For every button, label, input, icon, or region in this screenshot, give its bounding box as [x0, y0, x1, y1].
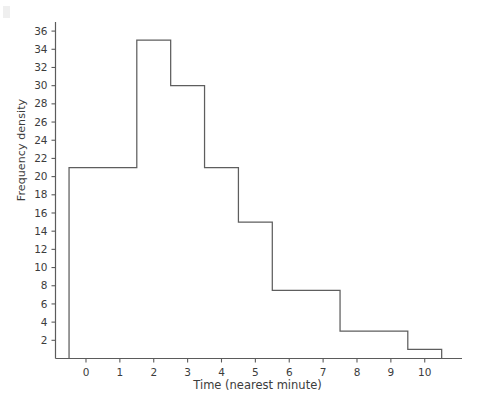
y-tick-label: 34 [34, 43, 48, 55]
x-tick-label: 7 [320, 366, 327, 378]
y-tick-label: 4 [41, 316, 48, 328]
x-tick-label: 3 [184, 366, 191, 378]
x-tick-label: 10 [418, 366, 431, 378]
y-tick-label: 16 [34, 207, 48, 219]
x-tick-label: 2 [150, 366, 157, 378]
y-axis-ticks: 24681012141618202224262830323436 [34, 25, 55, 346]
histogram-chart: Frequency density Time (nearest minute) … [0, 0, 477, 409]
y-tick-label: 36 [34, 25, 48, 37]
y-tick-label: 24 [34, 134, 48, 146]
y-tick-label: 20 [34, 170, 47, 182]
y-tick-label: 12 [34, 243, 47, 255]
x-tick-label: 5 [252, 366, 259, 378]
y-tick-label: 6 [41, 298, 48, 310]
x-tick-label: 1 [117, 366, 124, 378]
y-tick-label: 32 [34, 61, 47, 73]
y-tick-label: 26 [34, 116, 48, 128]
x-tick-label: 4 [218, 366, 225, 378]
x-tick-label: 8 [354, 366, 361, 378]
x-tick-label: 9 [388, 366, 395, 378]
y-tick-label: 22 [34, 152, 47, 164]
y-tick-label: 2 [41, 334, 48, 346]
histogram-outline [69, 40, 442, 358]
histogram-bars [69, 40, 442, 358]
y-tick-label: 8 [41, 279, 48, 291]
x-axis-ticks: 012345678910 [83, 359, 432, 378]
y-tick-label: 18 [34, 188, 47, 200]
y-tick-label: 10 [34, 261, 47, 273]
y-tick-label: 28 [34, 97, 47, 109]
y-tick-label: 30 [34, 79, 47, 91]
y-tick-label: 14 [34, 225, 48, 237]
plot-area: 24681012141618202224262830323436 0123456… [0, 0, 477, 409]
x-tick-label: 6 [286, 366, 293, 378]
x-tick-label: 0 [83, 366, 90, 378]
